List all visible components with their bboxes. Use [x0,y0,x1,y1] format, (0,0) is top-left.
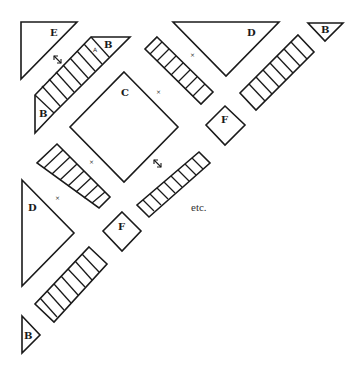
double-arrow-icon [54,56,61,63]
triangle-b-bottom-left: B [22,316,40,353]
diamond-f-lower: F [103,212,141,251]
label-b-stair-bottom: B [39,108,47,119]
etc-label: etc. [191,201,207,213]
marker-x: × [55,194,60,201]
label-d-left: D [28,202,37,213]
triangle-b-top-right: B [308,23,343,41]
label-f-lower: F [118,221,125,232]
double-arrow-icon [154,160,161,167]
marker-x: × [190,51,195,58]
diamond-f-upper: F [206,106,245,145]
label-f-upper: F [221,114,228,125]
label-b-stair-top: B [104,39,112,50]
label-b-top-right: B [321,24,329,35]
marker-x: × [156,88,161,95]
label-c: C [121,87,129,98]
marker-x: × [89,158,94,165]
label-e: E [50,27,58,38]
label-b-bottom-left: B [24,330,32,341]
label-d-top: D [247,27,256,38]
diagram-canvas: E B B A C [0,0,356,375]
diamond-c: C [70,72,178,182]
